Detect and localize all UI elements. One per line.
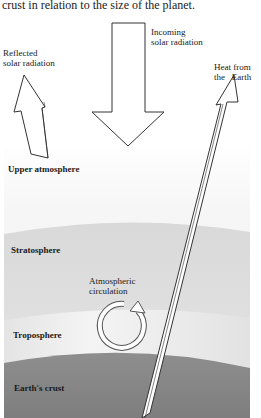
earth-crust-label: Earth's crust — [14, 383, 64, 393]
upper-atmosphere-label: Upper atmosphere — [8, 164, 79, 174]
reflected-radiation-arrow — [14, 75, 48, 158]
stratosphere-label: Stratosphere — [11, 245, 60, 255]
circulation-label: Atmospheric circulation — [89, 276, 136, 296]
troposphere-label: Troposphere — [13, 330, 62, 340]
reflected-radiation-label: Reflected solar radiation — [3, 48, 55, 68]
incoming-radiation-label: Incoming solar radiation — [151, 27, 203, 47]
heat-from-earth-label: Heat from the Earth — [214, 62, 251, 82]
